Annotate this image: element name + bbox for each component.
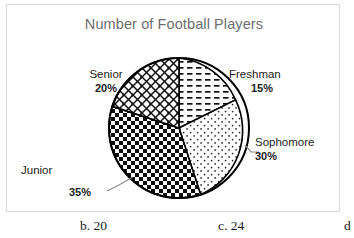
pie-chart — [7, 5, 341, 213]
pie-label-senior-percent: 20% — [75, 81, 137, 95]
pie-label-sophomore: Sophomore 30% — [255, 135, 341, 163]
pie-label-freshman-percent: 15% — [229, 81, 321, 95]
pie-label-junior-name: Junior — [21, 164, 52, 176]
pie-label-senior: Senior 20% — [75, 67, 137, 95]
answer-choice-b[interactable]: b. 20 — [80, 218, 107, 234]
pie-label-junior-percent-wrap: 35% — [69, 185, 109, 199]
answer-choice-c[interactable]: c. 24 — [218, 218, 244, 234]
pie-label-sophomore-name: Sophomore — [255, 135, 341, 149]
pie-label-freshman-name: Freshman — [229, 67, 321, 81]
answer-choices-row: b. 20 c. 24 d — [0, 214, 354, 238]
pie-label-junior-percent: 35% — [69, 186, 91, 198]
answer-choice-d[interactable]: d — [344, 218, 351, 234]
pie-label-junior: Junior — [21, 163, 91, 177]
pie-label-senior-name: Senior — [75, 67, 137, 81]
chart-frame: Number of Football Players — [6, 4, 340, 212]
leader-line-junior — [107, 177, 133, 191]
screenshot-root: Number of Football Players — [0, 0, 354, 238]
pie-label-freshman: Freshman 15% — [229, 67, 321, 95]
pie-label-sophomore-percent: 30% — [255, 149, 341, 163]
